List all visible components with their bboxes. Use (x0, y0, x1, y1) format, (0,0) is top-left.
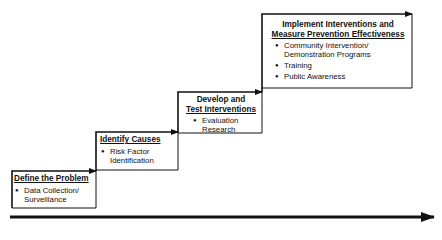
bullet-item: Community Intervention/ Demonstration Pr… (274, 41, 412, 59)
step-define-problem: Define the Problem Data Collection/ Surv… (14, 174, 96, 206)
step-title-line-1: Implement Interventions and (264, 20, 412, 30)
step-develop-test-interventions: Develop and Test Interventions Evaluatio… (180, 95, 262, 136)
step-title: Identify Causes (100, 135, 178, 145)
step-title: Define the Problem (14, 174, 96, 184)
bullet-item: Data Collection/ Surveillance (14, 186, 96, 204)
bullet-item: Training (274, 61, 412, 70)
step-title-line-1: Develop and (180, 95, 262, 105)
bullet-item: Risk Factor Identification (100, 147, 178, 165)
step-title-line-2: Measure Prevention Effectiveness (264, 30, 412, 40)
bullet-item: Public Awareness (274, 72, 412, 81)
bullet-item: Evaluation Research (192, 116, 262, 134)
step-title-line-2: Test Interventions (180, 105, 262, 115)
step-implement-measure: Implement Interventions and Measure Prev… (264, 20, 412, 83)
step-identify-causes: Identify Causes Risk Factor Identificati… (100, 135, 178, 167)
